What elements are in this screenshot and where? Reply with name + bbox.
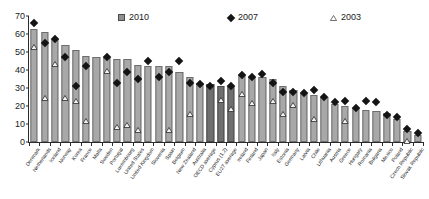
bar-2010 xyxy=(93,57,100,142)
bar-group xyxy=(236,16,246,142)
bar-group xyxy=(39,16,49,142)
x-tick-mark xyxy=(195,143,196,146)
x-tick-mark xyxy=(340,143,341,146)
x-tick-mark xyxy=(309,143,310,146)
bar-group xyxy=(247,16,257,142)
bar-group xyxy=(288,16,298,142)
x-tick-mark xyxy=(112,143,113,146)
marker-2003 xyxy=(280,103,287,109)
plot-area: 010203040506070 xyxy=(29,16,423,142)
marker-2007 xyxy=(175,57,183,65)
bar-2010 xyxy=(145,66,152,142)
x-tick-mark xyxy=(299,143,300,146)
x-tick-mark xyxy=(319,143,320,146)
bar-group xyxy=(382,16,392,142)
marker-2003 xyxy=(404,130,411,136)
x-tick-mark xyxy=(382,143,383,146)
marker-2003 xyxy=(342,110,349,116)
bar-group xyxy=(29,16,39,142)
x-tick-mark xyxy=(174,143,175,146)
x-tick-mark xyxy=(205,143,206,146)
marker-2003 xyxy=(311,108,318,114)
bar-2010 xyxy=(269,79,276,142)
x-tick-mark xyxy=(50,143,51,146)
bar-group xyxy=(102,16,112,142)
marker-2003 xyxy=(186,103,193,109)
x-tick-mark xyxy=(371,143,372,146)
marker-2003 xyxy=(134,119,141,125)
bar-group xyxy=(81,16,91,142)
bar-group xyxy=(392,16,402,142)
x-tick-mark xyxy=(288,143,289,146)
x-tick-mark xyxy=(413,143,414,146)
x-tick-mark xyxy=(278,143,279,146)
bar-group xyxy=(309,16,319,142)
bar-2010 xyxy=(321,97,328,142)
bar-2010 xyxy=(393,119,400,142)
x-tick-mark xyxy=(361,143,362,146)
bar-group xyxy=(164,16,174,142)
marker-2003 xyxy=(103,60,110,66)
bar-2010 xyxy=(331,104,338,142)
bar-group xyxy=(133,16,143,142)
marker-2003 xyxy=(51,53,58,59)
bar-group xyxy=(91,16,101,142)
bar-2010 xyxy=(352,108,359,142)
bar-2010 xyxy=(373,111,380,142)
bar-2010 xyxy=(362,110,369,142)
x-tick-mark xyxy=(164,143,165,146)
bar-group xyxy=(267,16,277,142)
marker-2007 xyxy=(372,98,380,106)
x-tick-mark xyxy=(423,143,424,146)
x-tick-mark xyxy=(330,143,331,146)
x-tick-mark xyxy=(350,143,351,146)
bar-group xyxy=(185,16,195,142)
x-tick-mark xyxy=(267,143,268,146)
x-tick-mark xyxy=(185,143,186,146)
bar-2010 xyxy=(176,72,183,142)
bar-group xyxy=(402,16,412,142)
bar-group xyxy=(70,16,80,142)
bar-group xyxy=(226,16,236,142)
bar-group xyxy=(413,16,423,142)
x-tick-mark xyxy=(143,143,144,146)
bar-group xyxy=(216,16,226,142)
bar-group xyxy=(50,16,60,142)
x-tick-mark xyxy=(81,143,82,146)
marker-2003 xyxy=(290,94,297,100)
x-tick-mark xyxy=(153,143,154,146)
bar-group xyxy=(195,16,205,142)
marker-2003 xyxy=(248,92,255,98)
bar-group xyxy=(278,16,288,142)
x-tick-mark xyxy=(133,143,134,146)
bar-group xyxy=(153,16,163,142)
bar-group xyxy=(361,16,371,142)
x-tick-mark xyxy=(216,143,217,146)
x-tick-mark xyxy=(29,143,30,146)
bar-group xyxy=(205,16,215,142)
bar-2010 xyxy=(207,84,214,142)
marker-2003 xyxy=(62,87,69,93)
bar-group xyxy=(319,16,329,142)
x-tick-mark xyxy=(392,143,393,146)
bar-2010 xyxy=(259,77,266,142)
bar-2010 xyxy=(228,86,235,142)
bar-2010 xyxy=(300,93,307,142)
bar-2010 xyxy=(196,83,203,142)
marker-2003 xyxy=(83,110,90,116)
marker-2007 xyxy=(144,57,152,65)
bars-group xyxy=(29,16,423,142)
marker-2003 xyxy=(269,90,276,96)
bar-group xyxy=(299,16,309,142)
marker-2003 xyxy=(41,87,48,93)
marker-2007 xyxy=(217,77,225,85)
marker-2007 xyxy=(362,96,370,104)
marker-2003 xyxy=(124,114,131,120)
x-tick-mark xyxy=(247,143,248,146)
bar-group xyxy=(330,16,340,142)
x-tick-mark xyxy=(102,143,103,146)
x-tick-mark xyxy=(257,143,258,146)
marker-2003 xyxy=(238,83,245,89)
marker-2003 xyxy=(31,36,38,42)
chart-container: 2010 2007 2003 010203040506070 DenmarkNe… xyxy=(0,0,429,199)
